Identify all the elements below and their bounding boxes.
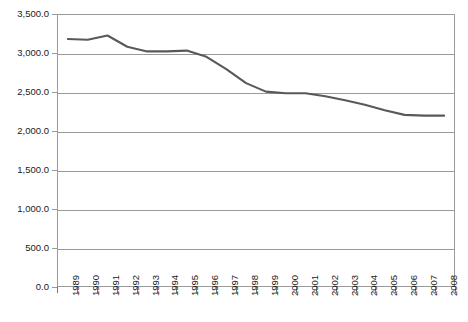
x-axis-label-group: 1989199019911992199319941995199619971998… bbox=[0, 0, 468, 322]
x-axis-tick-label: 2004 bbox=[369, 275, 379, 296]
x-axis-tick-label: 1994 bbox=[170, 275, 180, 296]
x-axis-tick-label: 1998 bbox=[250, 275, 260, 296]
x-axis-tick-label: 1992 bbox=[131, 275, 141, 296]
x-axis-tick-label: 2000 bbox=[290, 275, 300, 296]
line-chart: 0.0500.01,000.01,500.02,000.02,500.03,00… bbox=[0, 0, 468, 322]
x-axis-tick-label: 2006 bbox=[409, 275, 419, 296]
x-axis-tick-label: 2008 bbox=[449, 275, 459, 296]
x-axis-tick-label: 2005 bbox=[389, 275, 399, 296]
x-axis-tick-label: 1996 bbox=[210, 275, 220, 296]
x-axis-tick-label: 1990 bbox=[91, 275, 101, 296]
x-axis-tick-label: 2003 bbox=[350, 275, 360, 296]
x-axis-tick-label: 2001 bbox=[310, 275, 320, 296]
x-axis-tick-label: 2007 bbox=[429, 275, 439, 296]
x-axis-tick-label: 1997 bbox=[230, 275, 240, 296]
x-axis-tick-label: 2002 bbox=[330, 275, 340, 296]
x-axis-tick-label: 1989 bbox=[71, 275, 81, 296]
x-axis-tick-label: 1995 bbox=[190, 275, 200, 296]
x-axis-tick-label: 1999 bbox=[270, 275, 280, 296]
x-axis-tick-label: 1993 bbox=[151, 275, 161, 296]
x-axis-tick-label: 1991 bbox=[111, 275, 121, 296]
